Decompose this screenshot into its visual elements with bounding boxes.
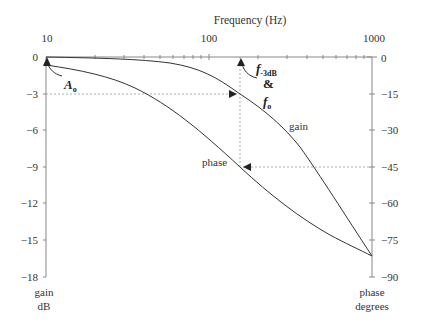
- ao-label: Ao: [63, 77, 77, 94]
- guide-lines: [46, 57, 372, 167]
- gain-tick-15: −15: [21, 234, 39, 246]
- phase-tick-45: −45: [381, 161, 399, 173]
- phase-tick-15: −15: [381, 88, 399, 100]
- x-tick-label-100: 100: [201, 32, 218, 44]
- f3db-arrow-icon: [237, 58, 245, 66]
- phase-guide-arrow-icon: [243, 163, 251, 171]
- phase-unit-label-2: degrees: [355, 300, 389, 312]
- f3db-annotation: f-3dB & fo: [237, 58, 277, 111]
- frequency-axis: [46, 54, 372, 60]
- phase-axis-tick-labels: 0 −15 −30 −45 −60 −75 −90: [381, 52, 399, 283]
- phase-tick-60: −60: [381, 197, 399, 209]
- chart-title: Frequency (Hz): [214, 14, 287, 27]
- phase-unit-label-1: phase: [359, 286, 384, 298]
- gain-unit-label-1: gain: [35, 286, 54, 298]
- ampersand-label: &: [263, 76, 274, 91]
- bode-plot: Frequency (Hz) 10 100 1000 0: [0, 0, 421, 334]
- gain-series-label: gain: [289, 120, 308, 132]
- phase-tick-75: −75: [381, 234, 399, 246]
- gain-axis-tick-labels: 0 −3 −6 −9 −12 −15 −18: [21, 51, 39, 283]
- gain-tick-9: −9: [26, 161, 38, 173]
- gain-tick-6: −6: [26, 124, 38, 136]
- gain-tick-0: 0: [33, 51, 39, 63]
- phase-tick-30: −30: [381, 124, 399, 136]
- fo-label: fo: [263, 94, 271, 111]
- ao-annotation: Ao: [43, 57, 77, 94]
- gain-tick-12: −12: [21, 197, 38, 209]
- phase-series-label: phase: [202, 156, 227, 168]
- gain-axis: [43, 57, 46, 277]
- phase-tick-0: 0: [381, 52, 387, 64]
- gain-tick-3: −3: [26, 88, 38, 100]
- x-tick-label-1000: 1000: [363, 32, 386, 44]
- gain-unit-label-2: dB: [38, 300, 51, 312]
- phase-tick-90: −90: [381, 271, 399, 283]
- x-tick-label-10: 10: [42, 32, 54, 44]
- gain-tick-18: −18: [21, 271, 39, 283]
- ao-arrow-icon: [43, 57, 51, 66]
